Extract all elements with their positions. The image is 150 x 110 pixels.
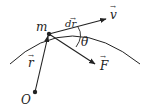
- origin-label: O: [21, 93, 31, 107]
- angle-label: θ: [81, 35, 89, 49]
- force-label: F: [99, 59, 109, 73]
- velocity-vector-mark: →: [110, 3, 116, 11]
- mass-point: [47, 32, 51, 36]
- position-vector-mark: →: [28, 52, 34, 60]
- mass-label: m: [36, 20, 47, 34]
- velocity-vector-arrow: [49, 19, 106, 34]
- physics-diagram: m dr → v → θ r → F → O: [0, 0, 150, 110]
- origin-point: [33, 90, 37, 94]
- displacement-vector-mark: →: [70, 15, 76, 23]
- force-vector-mark: →: [100, 53, 106, 61]
- angle-arc: [76, 27, 81, 47]
